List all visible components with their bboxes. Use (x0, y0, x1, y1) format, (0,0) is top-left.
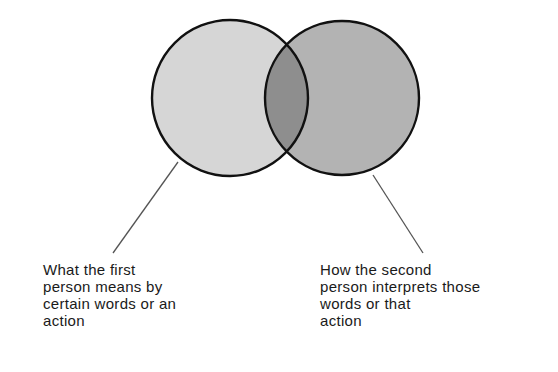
left-leader-line (113, 162, 178, 253)
second-person-caption: How the second person interprets those w… (320, 261, 480, 329)
caption-line: words or that (320, 295, 480, 312)
caption-line: person means by (43, 278, 176, 295)
caption-line: action (43, 312, 176, 329)
caption-line: certain words or an (43, 295, 176, 312)
caption-line: person interprets those (320, 278, 480, 295)
caption-line: What the first (43, 261, 176, 278)
caption-line: action (320, 312, 480, 329)
first-person-caption: What the first person means by certain w… (43, 261, 176, 329)
caption-line: How the second (320, 261, 480, 278)
right-leader-line (373, 175, 423, 253)
